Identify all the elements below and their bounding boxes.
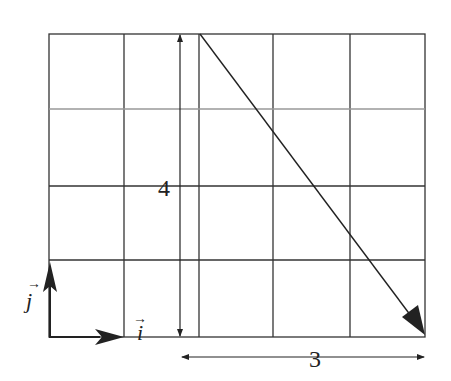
unit-i-arrow-mark: → <box>133 311 147 326</box>
unit-vector-i: i → <box>49 311 147 345</box>
unit-vector-j: j → <box>23 262 57 337</box>
resultant-vector-arrow <box>200 34 425 335</box>
vector-grid-diagram: 4 3 i → j → <box>0 0 451 381</box>
unit-j-arrow-mark: → <box>27 276 41 291</box>
vertical-dimension-label: 4 <box>158 175 170 201</box>
grid <box>49 34 425 337</box>
horizontal-dimension-label: 3 <box>309 346 321 372</box>
unit-j-label: j <box>23 288 32 313</box>
